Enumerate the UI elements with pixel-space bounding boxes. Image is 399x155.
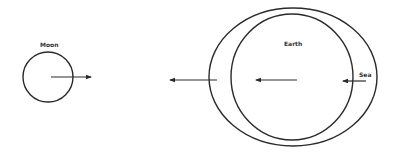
tidal-diagram: Moon Earth Sea bbox=[0, 0, 399, 155]
moon-label: Moon bbox=[40, 41, 59, 48]
earth-label: Earth bbox=[284, 40, 302, 47]
water-bulge-ellipse bbox=[209, 8, 377, 146]
sea: Sea bbox=[343, 71, 371, 81]
earth: Earth bbox=[231, 14, 353, 140]
sea-label: Sea bbox=[359, 71, 371, 78]
earth-circle bbox=[231, 14, 353, 140]
moon: Moon bbox=[23, 41, 91, 102]
